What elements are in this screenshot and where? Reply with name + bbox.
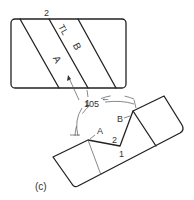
label-point-1-bottom: 1 — [119, 149, 124, 159]
degree-arrow-mark: ← — [101, 93, 110, 103]
projection-tick — [87, 90, 88, 97]
angle-arc-left — [77, 108, 82, 136]
bottom-view-outline — [53, 96, 183, 187]
label-point-2-top: 2 — [44, 8, 49, 18]
label-point-2-bottom: 2 — [112, 135, 117, 145]
top-view-edge-left — [20, 19, 59, 88]
label-b-leader — [124, 116, 130, 118]
label-surface-a-bottom: A — [97, 126, 103, 136]
label-surface-b-top: B — [71, 41, 84, 52]
angle-extension-right — [134, 100, 136, 108]
label-surface-a-top: A — [51, 54, 64, 65]
figure-caption: (c) — [35, 181, 47, 192]
label-angle: 105 — [84, 99, 99, 109]
arrow-head-icon — [67, 75, 71, 81]
label-a-leader — [90, 135, 95, 139]
drawing-canvas: 2 TL B A 1 105 ← B A 2 1 (c) — [0, 0, 194, 200]
view-direction-arrow — [69, 78, 79, 100]
fold-line-right — [133, 111, 156, 146]
top-view-edge-right — [78, 19, 116, 88]
fold-line-left — [88, 140, 101, 175]
label-surface-b-bottom: B — [117, 114, 123, 124]
